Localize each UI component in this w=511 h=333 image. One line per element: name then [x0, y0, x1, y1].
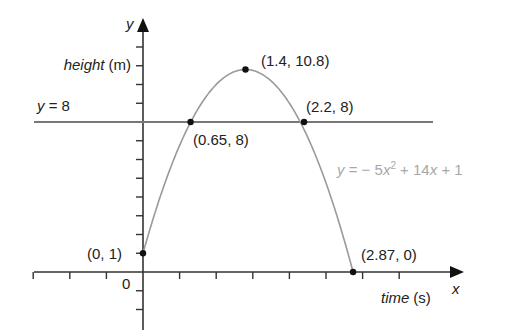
hline-rest: = 8: [45, 97, 70, 114]
point-label-22-8: (2.2, 8): [306, 98, 354, 115]
hline-label: y = 8: [36, 97, 70, 114]
y-axis-arrow-icon: [137, 18, 149, 32]
data-point: [350, 269, 356, 275]
data-point: [301, 119, 307, 125]
eq-mid2: + 14: [396, 161, 430, 178]
eq-mid1: = − 5: [345, 161, 383, 178]
data-point: [187, 119, 193, 125]
point-label-287-0: (2.87, 0): [361, 246, 417, 263]
data-point: [140, 250, 146, 256]
height-word: height: [64, 56, 106, 73]
y-axis-letter: y: [125, 15, 135, 32]
x-axis-letter: x: [451, 280, 460, 297]
time-unit: (s): [413, 289, 431, 306]
point-label-0-1: (0, 1): [87, 245, 122, 262]
origin-label: 0: [122, 275, 130, 292]
height-unit: (m): [109, 56, 132, 73]
data-point: [242, 66, 248, 72]
x-axis-arrow-icon: [450, 266, 464, 278]
x-axis-title: time(s): [381, 289, 431, 306]
point-label-065-8: (0.65, 8): [193, 131, 249, 148]
quadratic-chart: y x 0 height(m) time(s) y = 8 y = − 5x2 …: [0, 0, 511, 333]
point-label-14-108: (1.4, 10.8): [261, 52, 329, 69]
y-ticks: [136, 47, 143, 310]
equation-label: y = − 5x2 + 14x + 1: [336, 160, 463, 178]
time-word: time: [381, 289, 409, 306]
eq-end: + 1: [437, 161, 462, 178]
x-ticks: [33, 272, 399, 279]
y-axis-title: height(m): [64, 56, 131, 73]
